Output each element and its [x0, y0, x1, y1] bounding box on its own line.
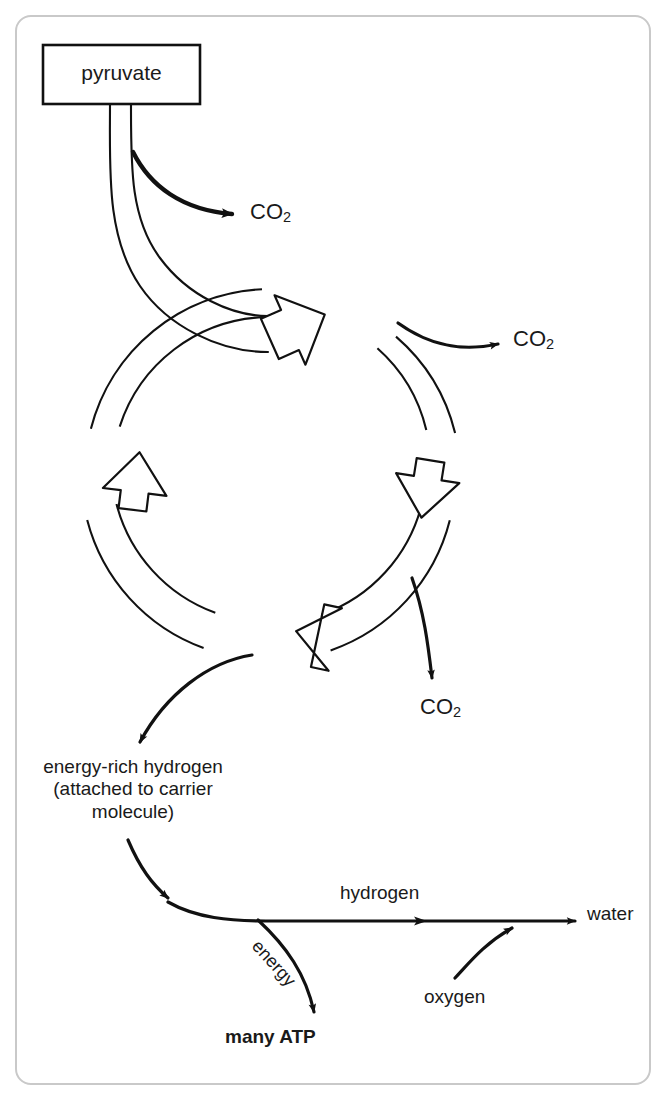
- label-water: water: [587, 903, 633, 925]
- hydrogen-feed-arrow: [128, 840, 168, 898]
- label-hydrogen: hydrogen: [340, 882, 419, 904]
- label-pyruvate: pyruvate: [43, 61, 200, 86]
- energy-rich-hydrogen-line-2: (attached to carrier: [18, 778, 248, 800]
- co2-arrow-2: [398, 323, 498, 347]
- label-energy-rich-hydrogen: energy-rich hydrogen (attached to carrie…: [18, 756, 248, 823]
- energy-rich-hydrogen-line-1: energy-rich hydrogen: [18, 756, 248, 778]
- label-co2-second: CO2: [513, 326, 554, 353]
- co2-arrow-3: [412, 578, 432, 678]
- cycle-arrowhead-left: [101, 448, 172, 513]
- co2-subscript: 2: [453, 704, 461, 720]
- co2-text: CO: [250, 199, 283, 224]
- label-co2-first: CO2: [250, 199, 291, 226]
- label-many-atp: many ATP: [225, 1026, 316, 1048]
- cycle-inflow-arrowhead: [254, 280, 340, 374]
- label-oxygen: oxygen: [424, 986, 485, 1008]
- diagram-page: pyruvate CO2 CO2 CO2 energy-rich hydroge…: [0, 0, 668, 1102]
- co2-subscript: 2: [283, 209, 291, 225]
- label-co2-third: CO2: [420, 694, 461, 721]
- oxygen-to-water-arrow: [455, 928, 512, 978]
- cycle-arrowhead-right: [390, 455, 462, 522]
- energy-rich-hydrogen-arrow: [140, 655, 252, 742]
- hydrogen-to-water-arrow: [168, 902, 575, 921]
- co2-text: CO: [420, 694, 453, 719]
- diagram-canvas: [0, 0, 668, 1102]
- co2-text: CO: [513, 326, 546, 351]
- cycle-arrowhead-bottom: [289, 600, 341, 671]
- energy-rich-hydrogen-line-3: molecule): [18, 801, 248, 823]
- pyruvate-tube: [110, 104, 268, 352]
- co2-arrow-1: [133, 152, 232, 214]
- co2-subscript: 2: [546, 336, 554, 352]
